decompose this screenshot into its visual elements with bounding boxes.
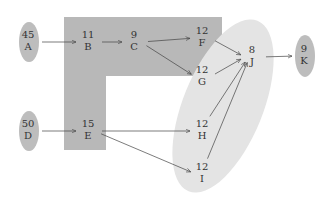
node-id: H (190, 130, 214, 142)
node-H: 12H (190, 118, 214, 142)
node-id: B (76, 41, 100, 53)
node-value: 12 (190, 161, 214, 173)
node-id: E (76, 130, 100, 142)
node-A: 45A (16, 29, 40, 53)
node-E: 15E (76, 118, 100, 142)
node-F: 12F (190, 25, 214, 49)
node-value: 45 (16, 29, 40, 41)
node-id: G (190, 76, 214, 88)
node-id: D (16, 130, 40, 142)
node-id: K (292, 55, 316, 67)
node-id: F (190, 37, 214, 49)
node-id: J (240, 56, 264, 68)
node-value: 15 (76, 118, 100, 130)
node-value: 12 (190, 64, 214, 76)
node-id: A (16, 41, 40, 53)
network-diagram (0, 0, 331, 204)
node-id: I (190, 173, 214, 185)
node-value: 12 (190, 118, 214, 130)
node-K: 9K (292, 43, 316, 67)
node-value: 12 (190, 25, 214, 37)
node-J: 8J (240, 44, 264, 68)
node-D: 50D (16, 118, 40, 142)
node-id: C (122, 41, 146, 53)
node-C: 9C (122, 29, 146, 53)
node-value: 11 (76, 29, 100, 41)
node-G: 12G (190, 64, 214, 88)
node-value: 8 (240, 44, 264, 56)
node-value: 9 (292, 43, 316, 55)
node-value: 9 (122, 29, 146, 41)
node-value: 50 (16, 118, 40, 130)
node-I: 12I (190, 161, 214, 185)
node-B: 11B (76, 29, 100, 53)
